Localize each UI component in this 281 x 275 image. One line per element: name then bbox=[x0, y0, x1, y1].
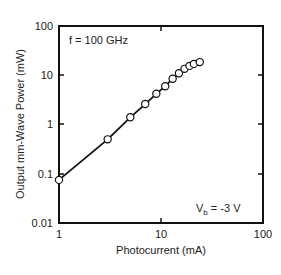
data-point bbox=[104, 136, 111, 143]
data-point bbox=[169, 75, 176, 82]
data-point bbox=[142, 100, 149, 107]
x-tick-100: 100 bbox=[254, 228, 272, 240]
data-point bbox=[153, 90, 160, 97]
y-tick-1: 1 bbox=[47, 118, 53, 130]
frequency-annotation: f = 100 GHz bbox=[69, 34, 128, 46]
plot-frame bbox=[59, 26, 263, 223]
y-tick-10: 10 bbox=[41, 69, 53, 81]
bias-value: = -3 V bbox=[208, 202, 241, 214]
y-axis-title: Output mm-Wave Power (mW) bbox=[14, 49, 26, 199]
data-point bbox=[196, 58, 203, 65]
x-tick-labels: 1 10 100 bbox=[56, 228, 272, 240]
x-tick-10: 10 bbox=[155, 228, 167, 240]
bias-annotation: Vb = -3 V bbox=[196, 202, 241, 217]
data-point bbox=[162, 83, 169, 90]
x-axis-title: Photocurrent (mA) bbox=[116, 244, 206, 256]
data-point bbox=[127, 114, 134, 121]
x-tick-1: 1 bbox=[56, 228, 62, 240]
y-tick-100: 100 bbox=[35, 20, 53, 32]
y-tick-labels: 100 10 1 0.1 0.01 bbox=[32, 20, 53, 229]
y-tick-0-01: 0.01 bbox=[32, 217, 53, 229]
y-tick-0-1: 0.1 bbox=[38, 168, 53, 180]
chart-canvas: 100 10 1 0.1 0.01 1 10 100 Photocurrent … bbox=[0, 0, 281, 275]
data-point bbox=[55, 176, 62, 183]
